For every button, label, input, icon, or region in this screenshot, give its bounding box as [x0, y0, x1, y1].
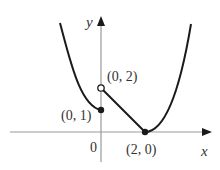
- origin-label: 0: [90, 140, 97, 155]
- middle-line: [101, 88, 145, 132]
- open-point-0-2: [98, 85, 104, 91]
- left-curve: [60, 23, 101, 110]
- point-label-2-0: (2, 0): [126, 142, 157, 158]
- y-axis-arrow-icon: [97, 16, 105, 26]
- closed-point-2-0: [142, 129, 148, 135]
- closed-point-0-1: [98, 107, 104, 113]
- point-label-0-2: (0, 2): [107, 69, 138, 85]
- graph-canvas: y x 0 (0, 1) (0, 2) (2, 0): [0, 0, 220, 170]
- x-axis-arrow-icon: [202, 128, 212, 136]
- right-curve: [145, 24, 191, 132]
- x-axis-label: x: [200, 143, 208, 159]
- point-label-0-1: (0, 1): [61, 108, 92, 124]
- y-axis-label: y: [84, 14, 93, 30]
